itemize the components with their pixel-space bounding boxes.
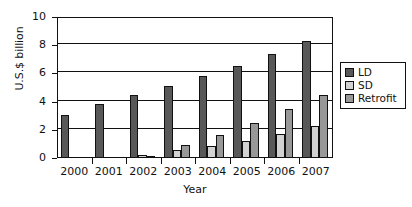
- y-axis-label: 8: [0, 39, 46, 50]
- x-axis-title: Year: [57, 183, 333, 196]
- chart-legend: LDSDRetrofit: [340, 62, 406, 109]
- plot-area: [57, 17, 333, 158]
- y-axis-tick: [52, 102, 57, 103]
- legend-swatch-icon: [345, 68, 354, 77]
- x-axis-label-2007: 2007: [293, 166, 339, 178]
- x-axis-tick: [195, 158, 196, 164]
- x-axis-tick: [126, 158, 127, 164]
- legend-swatch-icon: [345, 94, 354, 103]
- y-axis-tick: [52, 130, 57, 131]
- gridline: [58, 71, 332, 72]
- y-axis-label: 6: [0, 67, 46, 78]
- x-axis-tick: [92, 158, 93, 164]
- y-axis-tick: [52, 45, 57, 46]
- x-axis-tick: [230, 158, 231, 164]
- legend-swatch-icon: [345, 81, 354, 90]
- y-axis-label: 10: [0, 11, 46, 22]
- gridline: [58, 128, 332, 129]
- x-axis-tick: [264, 158, 265, 164]
- legend-item-ld[interactable]: LD: [345, 66, 402, 79]
- y-axis-tick: [52, 73, 57, 74]
- legend-label: LD: [358, 67, 372, 78]
- gridline: [58, 100, 332, 101]
- gridline: [58, 43, 332, 44]
- x-axis-tick: [299, 158, 300, 164]
- y-axis-label: 4: [0, 96, 46, 107]
- y-axis-label: 2: [0, 124, 46, 135]
- legend-item-sd[interactable]: SD: [345, 79, 402, 92]
- legend-label: Retrofit: [358, 93, 397, 104]
- y-axis-tick: [52, 17, 57, 18]
- legend-item-retrofit[interactable]: Retrofit: [345, 92, 402, 105]
- legend-label: SD: [358, 80, 373, 91]
- bar-chart: U.S.$ billion 0246810 200020012002200320…: [0, 0, 412, 207]
- y-axis-label: 0: [0, 152, 46, 163]
- y-axis-tick: [52, 158, 57, 159]
- x-axis-tick: [161, 158, 162, 164]
